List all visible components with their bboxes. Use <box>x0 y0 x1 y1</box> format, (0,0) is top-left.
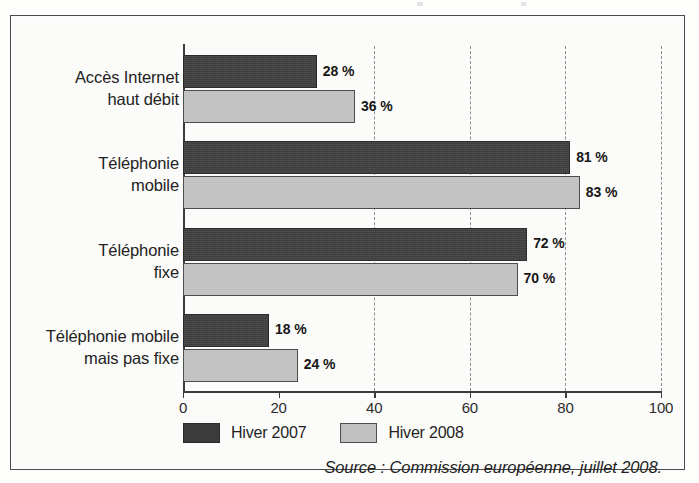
bar-value-label: 72 % <box>533 235 565 251</box>
category-label-line: mais pas fixe <box>19 348 179 370</box>
bar[interactable] <box>183 176 580 209</box>
plot-area <box>183 46 661 391</box>
scan-artifact <box>521 2 526 6</box>
category-label: Accès Internethaut débit <box>19 67 179 111</box>
bar-value-label: 83 % <box>586 184 618 200</box>
x-tick-label: 0 <box>179 399 187 416</box>
x-tick-label: 80 <box>557 399 573 416</box>
bar[interactable] <box>183 141 570 174</box>
x-tick <box>279 391 280 398</box>
bar[interactable] <box>183 263 518 296</box>
bar-value-label: 36 % <box>361 98 393 114</box>
gridline <box>661 46 662 391</box>
legend-swatch-icon <box>183 423 220 443</box>
category-label-line: Téléphonie <box>19 153 179 175</box>
chart-frame: 020406080100 28 %36 %81 %83 %72 %70 %18 … <box>10 15 685 470</box>
x-tick <box>661 391 662 398</box>
x-tick-label: 60 <box>462 399 478 416</box>
x-tick-label: 20 <box>270 399 286 416</box>
legend-item-hiver-2007[interactable]: Hiver 2007 <box>183 423 306 443</box>
chart-page: 020406080100 28 %36 %81 %83 %72 %70 %18 … <box>0 0 699 483</box>
category-label-line: fixe <box>19 262 179 284</box>
scan-artifact <box>417 2 423 6</box>
category-label: Téléphonie mobilemais pas fixe <box>19 326 179 370</box>
category-label-line: mobile <box>19 175 179 197</box>
legend-label: Hiver 2007 <box>231 424 306 442</box>
x-axis-line <box>183 391 662 393</box>
bar[interactable] <box>183 349 298 382</box>
category-label-line: Accès Internet <box>19 67 179 89</box>
category-label-line: Téléphonie mobile <box>19 326 179 348</box>
legend-item-hiver-2008[interactable]: Hiver 2008 <box>340 423 463 443</box>
legend-swatch-icon <box>340 423 377 443</box>
bar-value-label: 18 % <box>275 321 307 337</box>
x-tick <box>470 391 471 398</box>
category-label: Téléphoniemobile <box>19 153 179 197</box>
x-tick <box>183 391 184 398</box>
source-note: Source : Commission européenne, juillet … <box>324 458 662 477</box>
bar-value-label: 24 % <box>304 356 336 372</box>
category-label-line: Téléphonie <box>19 240 179 262</box>
bar[interactable] <box>183 228 527 261</box>
category-label-line: haut débit <box>19 89 179 111</box>
bar[interactable] <box>183 314 269 347</box>
bar[interactable] <box>183 90 355 123</box>
x-tick <box>565 391 566 398</box>
bar-value-label: 70 % <box>524 270 556 286</box>
bar[interactable] <box>183 55 317 88</box>
legend-label: Hiver 2008 <box>388 424 463 442</box>
x-tick <box>374 391 375 398</box>
chart-legend: Hiver 2007 Hiver 2008 <box>183 423 464 443</box>
x-tick-label: 40 <box>366 399 382 416</box>
category-labels: Accès Internethaut débitTéléphoniemobile… <box>16 16 179 471</box>
x-tick-label: 100 <box>649 399 673 416</box>
bar-value-label: 28 % <box>323 63 355 79</box>
bar-value-label: 81 % <box>576 149 608 165</box>
category-label: Téléphoniefixe <box>19 240 179 284</box>
